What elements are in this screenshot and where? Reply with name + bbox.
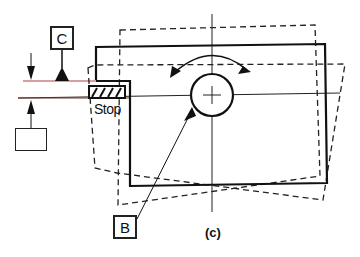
datum-b-text: B	[120, 219, 130, 236]
dimension-arrow-down-icon	[27, 66, 35, 80]
stop-label: Stop	[94, 101, 121, 117]
dimension-arrow-up-icon	[27, 100, 35, 114]
empty-feature-control-box	[15, 128, 47, 151]
rotation-arc	[175, 55, 247, 72]
rotation-arrowhead-right-icon	[238, 66, 251, 74]
datum-c-text: C	[57, 30, 68, 47]
datum-b-leader-line	[137, 114, 190, 219]
datum-c-triangle-icon	[55, 67, 69, 81]
figure-caption: (c)	[205, 225, 221, 240]
datum-b-label: B	[113, 215, 137, 239]
horizontal-centerline	[18, 93, 340, 98]
datum-c-label: C	[50, 26, 74, 50]
